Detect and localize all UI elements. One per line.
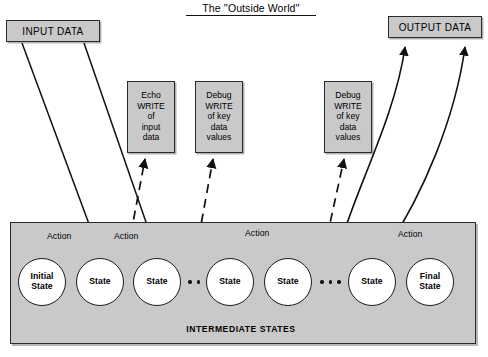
ellipsis-1 bbox=[188, 280, 200, 284]
state-label-line1: State bbox=[277, 277, 299, 287]
input-data-box: INPUT DATA bbox=[6, 20, 100, 42]
note-line: of bbox=[147, 111, 154, 121]
debug-write-note-2: Debug WRITE of key data values bbox=[324, 81, 372, 153]
state-label-line2: State bbox=[30, 282, 53, 292]
footer-caption bbox=[110, 350, 380, 357]
state-label-line1: State bbox=[219, 277, 241, 287]
input-data-label: INPUT DATA bbox=[22, 26, 83, 37]
action-label-3: Action bbox=[245, 228, 270, 238]
state-label-line1: State bbox=[146, 277, 168, 287]
note-line: Debug bbox=[206, 90, 231, 100]
note-line: input bbox=[142, 122, 161, 132]
arrow-input-to-state2 bbox=[22, 43, 99, 251]
note-line: values bbox=[336, 132, 361, 142]
action-label-4: Action bbox=[398, 229, 423, 239]
action-label-1: Action bbox=[47, 231, 72, 241]
note-line: data bbox=[340, 122, 357, 132]
arrow-state-to-output-2 bbox=[388, 47, 465, 247]
note-line: WRITE bbox=[205, 101, 233, 111]
state-label-line2: State bbox=[419, 282, 441, 292]
intermediate-states-label: INTERMEDIATE STATES bbox=[96, 324, 386, 334]
note-line: values bbox=[207, 132, 232, 142]
state-4[interactable]: State bbox=[264, 258, 312, 306]
state-label-line1: State bbox=[89, 277, 111, 287]
note-line: of key bbox=[337, 111, 360, 121]
state-final[interactable]: FinalState bbox=[406, 258, 454, 306]
output-data-label: OUTPUT DATA bbox=[399, 22, 472, 33]
diagram-title: The ''Outside World'' bbox=[186, 2, 316, 16]
note-line: Echo bbox=[141, 90, 161, 100]
note-line: of key bbox=[208, 111, 231, 121]
state-initial[interactable]: InitialState bbox=[18, 258, 66, 306]
note-line: WRITE bbox=[334, 101, 362, 111]
output-data-box: OUTPUT DATA bbox=[388, 16, 482, 38]
diagram-canvas: The ''Outside World'' bbox=[0, 0, 488, 357]
state-1[interactable]: State bbox=[76, 258, 124, 306]
ellipsis-2 bbox=[320, 280, 341, 284]
note-line: data bbox=[211, 122, 228, 132]
action-label-2: Action bbox=[114, 231, 139, 241]
state-5[interactable]: State bbox=[348, 258, 396, 306]
state-2[interactable]: State bbox=[133, 258, 181, 306]
note-line: WRITE bbox=[137, 101, 165, 111]
echo-write-note: Echo WRITE of input data bbox=[127, 81, 175, 153]
note-line: Debug bbox=[335, 90, 360, 100]
debug-write-note-1: Debug WRITE of key data values bbox=[195, 81, 243, 153]
state-3[interactable]: State bbox=[206, 258, 254, 306]
state-label-line1: State bbox=[361, 277, 383, 287]
note-line: data bbox=[143, 132, 160, 142]
